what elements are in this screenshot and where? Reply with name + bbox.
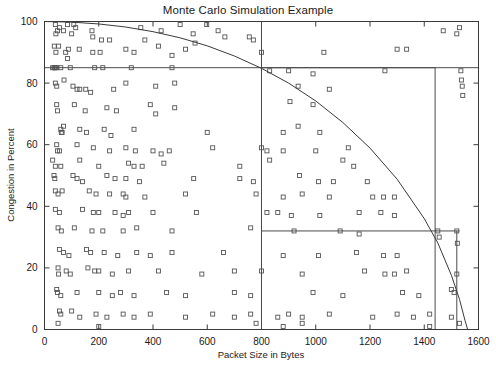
data-point [151, 149, 155, 153]
data-point [99, 38, 103, 42]
data-point [94, 312, 98, 316]
data-point [61, 29, 65, 33]
data-point [405, 47, 409, 51]
x-tick-label: 1000 [305, 336, 328, 347]
data-point [108, 38, 112, 42]
data-point [151, 210, 155, 214]
chart-figure: Monte Carlo Simulation Example 020040060… [0, 0, 496, 372]
data-point [379, 210, 383, 214]
data-point [51, 158, 55, 162]
data-point [91, 50, 95, 54]
data-point [87, 189, 91, 193]
data-point [363, 269, 367, 273]
data-point [108, 149, 112, 153]
data-point [67, 254, 71, 258]
data-point [281, 130, 285, 134]
y-tick-label: 40 [26, 201, 38, 212]
x-tick-label: 1600 [467, 336, 490, 347]
data-point [232, 291, 236, 295]
data-point [84, 87, 88, 91]
data-point [132, 294, 136, 298]
data-point [296, 124, 300, 128]
y-tick-label: 60 [26, 139, 38, 150]
data-point [72, 226, 76, 230]
data-point [458, 321, 462, 325]
data-point [211, 146, 215, 150]
data-point [223, 35, 227, 39]
data-point [165, 291, 169, 295]
data-point [98, 50, 102, 54]
data-point [78, 87, 82, 91]
data-point [83, 109, 87, 113]
data-point [143, 195, 147, 199]
data-point [251, 38, 255, 42]
data-point [173, 81, 177, 85]
region-rectangle [262, 68, 436, 231]
data-point [90, 229, 94, 233]
data-point [265, 210, 269, 214]
data-point [205, 23, 209, 27]
data-point [121, 229, 125, 233]
data-point [91, 146, 95, 150]
data-point [80, 207, 84, 211]
data-point [254, 321, 258, 325]
data-point [395, 47, 399, 51]
data-point [97, 210, 101, 214]
data-point [112, 87, 116, 91]
data-point [71, 174, 75, 178]
data-point [52, 44, 56, 48]
data-point [116, 254, 120, 258]
data-point [200, 272, 204, 276]
data-point [222, 251, 226, 255]
data-point [281, 324, 285, 328]
data-point [316, 254, 320, 258]
data-point [78, 315, 82, 319]
data-point [318, 130, 322, 134]
data-point [341, 294, 345, 298]
data-point [94, 192, 98, 196]
data-point [238, 164, 242, 168]
data-point [97, 269, 101, 273]
data-point [156, 269, 160, 273]
data-point [59, 164, 63, 168]
data-point [56, 321, 60, 325]
data-point [318, 214, 322, 218]
data-point [54, 50, 58, 54]
data-point [156, 44, 160, 48]
data-point [395, 312, 399, 316]
data-point [97, 164, 101, 168]
data-point [281, 149, 285, 153]
data-point [148, 312, 152, 316]
data-point [109, 133, 113, 137]
data-point [371, 315, 375, 319]
annotation-overlays [45, 22, 479, 330]
data-point [311, 291, 315, 295]
data-point [184, 294, 188, 298]
data-point [64, 269, 68, 273]
data-point [327, 195, 331, 199]
data-point [159, 152, 163, 156]
data-point [127, 161, 131, 165]
data-point [167, 149, 171, 153]
x-tick-label: 400 [145, 336, 162, 347]
y-tick-label: 80 [26, 78, 38, 89]
y-axis-label: Congestion in Percent [5, 128, 16, 222]
data-point [184, 47, 188, 51]
data-point [113, 210, 117, 214]
data-point [383, 69, 387, 73]
data-point [89, 90, 93, 94]
data-point [173, 106, 177, 110]
data-point [61, 251, 65, 255]
data-point [300, 321, 304, 325]
data-point [327, 87, 331, 91]
data-point [392, 195, 396, 199]
x-tick-label: 800 [253, 336, 270, 347]
data-point [459, 78, 463, 82]
data-point [105, 106, 109, 110]
y-tick-label: 100 [21, 16, 38, 27]
x-tick-label: 200 [90, 336, 107, 347]
data-point [327, 312, 331, 316]
data-point [90, 29, 94, 33]
data-point [57, 44, 61, 48]
data-point [461, 93, 465, 97]
